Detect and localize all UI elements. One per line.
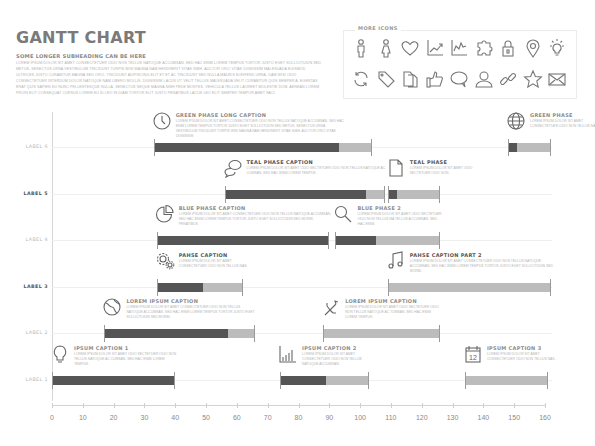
bar-endcap — [335, 232, 336, 249]
x-tick — [329, 403, 330, 408]
bar-progress — [225, 190, 367, 199]
gantt-bar[interactable] — [388, 283, 551, 292]
gantt-bar[interactable] — [465, 376, 548, 385]
bar-endcap — [550, 139, 551, 156]
pie-chart-icon — [155, 204, 175, 224]
gantt-bar[interactable] — [508, 143, 551, 152]
caption-body: Lorem ipsum dolor sit amet odio sectetue… — [345, 305, 442, 320]
music-note-icon — [386, 251, 406, 271]
bar-progress — [154, 143, 339, 152]
caption-title: IPSUM CAPTION 1 — [74, 345, 129, 351]
caption-title: PAHSE CAPTION PART 2 — [410, 252, 482, 258]
globe-icon — [506, 111, 526, 131]
x-tick-label: 150 — [502, 414, 526, 421]
gantt-bar[interactable] — [335, 236, 440, 245]
gantt-bar[interactable] — [52, 376, 175, 385]
bar-endcap — [225, 186, 226, 203]
gantt-chart: LABEL 6LABEL 5LABEL 4LABEL 3LABEL 2LABEL… — [0, 0, 595, 446]
x-tick — [83, 403, 84, 408]
gantt-bar[interactable] — [104, 329, 255, 338]
caption-body: Lorem ipsum dolor sit amet consectetuer … — [410, 259, 553, 274]
bar-endcap — [280, 372, 281, 389]
row-label: LABEL 2 — [8, 330, 48, 335]
caption-title: GREEN PHASE LONG CAPTION — [176, 112, 267, 118]
x-tick-label: 130 — [441, 414, 465, 421]
row-label: LABEL 6 — [8, 144, 48, 149]
bar-chart-icon — [278, 344, 298, 364]
x-tick-label: 40 — [163, 414, 187, 421]
x-tick-label: 100 — [348, 414, 372, 421]
bar-endcap — [157, 232, 158, 249]
bar-endcap — [242, 279, 243, 296]
caption-title: IPSUM CAPTION 2 — [302, 345, 357, 351]
svg-text:12: 12 — [469, 354, 477, 361]
row-label: LABEL 4 — [8, 237, 48, 242]
bar-endcap — [104, 325, 105, 342]
gantt-bar[interactable] — [225, 190, 385, 199]
bar-endcap — [174, 372, 175, 389]
caption-body: Lorem ipsum dolor sit amet consectetuer … — [179, 259, 249, 269]
x-tick — [545, 403, 546, 408]
x-tick-label: 60 — [225, 414, 249, 421]
caption-title: IPSUM CAPTION 3 — [487, 345, 542, 351]
bar-progress — [280, 376, 326, 385]
bar-endcap — [254, 325, 255, 342]
gantt-bar[interactable] — [157, 283, 243, 292]
caption-body: Lorem ipsum dolor sit amet consectetuer … — [302, 352, 372, 367]
gantt-bar[interactable] — [280, 376, 369, 385]
x-tick-label: 120 — [410, 414, 434, 421]
bar-endcap — [328, 232, 329, 249]
gantt-bar[interactable] — [323, 329, 440, 338]
x-tick-label: 50 — [194, 414, 218, 421]
x-tick — [206, 403, 207, 408]
row-label: LABEL 5 — [8, 191, 48, 196]
x-tick — [422, 403, 423, 408]
gantt-bar[interactable] — [157, 236, 330, 245]
bar-endcap — [465, 372, 466, 389]
bar-endcap — [508, 139, 509, 156]
caption-body: Lorem ipsum dolor sit amet odio sectetue… — [357, 212, 442, 227]
globe-arrow-icon — [102, 297, 122, 317]
x-tick-label: 140 — [471, 414, 495, 421]
bar-endcap — [368, 372, 369, 389]
bar-endcap — [323, 325, 324, 342]
bar-endcap — [154, 139, 155, 156]
x-tick-label: 30 — [132, 414, 156, 421]
caption-body: Lorem ipsum dolor sit amet odio sectetue… — [74, 352, 177, 367]
bar-progress — [157, 236, 330, 245]
x-tick-label: 20 — [102, 414, 126, 421]
bar-endcap — [439, 325, 440, 342]
bar-endcap — [371, 139, 372, 156]
document-icon — [386, 158, 406, 178]
bar-progress — [508, 143, 517, 152]
bar-endcap — [388, 186, 389, 203]
gantt-bar[interactable] — [154, 143, 373, 152]
caption-title: LOREM IPSUM CAPTION — [345, 298, 417, 304]
calendar-icon: 12 — [463, 344, 483, 364]
gantt-bar[interactable] — [388, 190, 440, 199]
x-tick-label: 160 — [533, 414, 557, 421]
bar-endcap — [388, 279, 389, 296]
x-tick-label: 10 — [71, 414, 95, 421]
bar-progress — [335, 236, 375, 245]
caption-body: Lorem ipsum dolor sit amet consectetuer … — [176, 119, 346, 139]
x-tick — [114, 403, 115, 408]
x-tick — [175, 403, 176, 408]
magnifier-icon — [333, 204, 353, 224]
x-tick — [144, 403, 145, 408]
x-tick — [237, 403, 238, 408]
bar-endcap — [157, 279, 158, 296]
x-tick — [360, 403, 361, 408]
caption-title: TEAL PHASE CAPTION — [247, 159, 313, 165]
caption-title: BLUE PHASE CAPTION — [179, 205, 246, 211]
caption-body: Lorem ipsum dolor sit amet consectetuer … — [530, 119, 595, 129]
caption-title: PAHSE CAPTION — [179, 252, 228, 258]
bar-progress — [157, 283, 203, 292]
caption-title: GREEN PHASE — [530, 112, 573, 118]
lightbulb-icon — [50, 344, 70, 364]
caption-title: LOREM IPSUM CAPTION — [126, 298, 198, 304]
x-tick — [268, 403, 269, 408]
bar-endcap — [384, 186, 385, 203]
caption-title: BLUE PHASE 2 — [357, 205, 401, 211]
x-tick-label: 0 — [40, 414, 64, 421]
